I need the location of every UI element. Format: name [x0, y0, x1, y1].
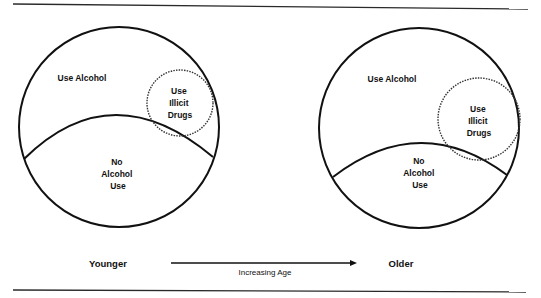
- age-axis: Younger Increasing Age Older: [89, 258, 414, 277]
- increasing-age-label: Increasing Age: [239, 268, 292, 277]
- older-label: Older: [389, 258, 414, 269]
- illicit-drugs-label-older: Use Illicit Drugs: [467, 104, 492, 138]
- top-rule: [13, 4, 528, 9]
- use-alcohol-label-younger: Use Alcohol: [58, 73, 107, 83]
- no-alcohol-label-older: No Alcohol Use: [403, 156, 437, 190]
- arrow-head-icon: [350, 260, 357, 266]
- illicit-drugs-label-younger: Use Illicit Drugs: [168, 86, 193, 120]
- age-alcohol-drug-diagram: Use Alcohol Use Illicit Drugs No Alcohol…: [0, 0, 541, 298]
- bottom-rule: [13, 290, 526, 292]
- panel-older: Use Alcohol Use Illicit Drugs No Alcohol…: [319, 28, 520, 228]
- population-circle-younger: [19, 27, 219, 227]
- no-alcohol-arc-younger: [24, 115, 213, 159]
- panel-younger: Use Alcohol Use Illicit Drugs No Alcohol…: [19, 27, 219, 227]
- no-alcohol-label-younger: No Alcohol Use: [101, 157, 135, 191]
- use-alcohol-label-older: Use Alcohol: [368, 74, 417, 84]
- younger-label: Younger: [89, 258, 127, 269]
